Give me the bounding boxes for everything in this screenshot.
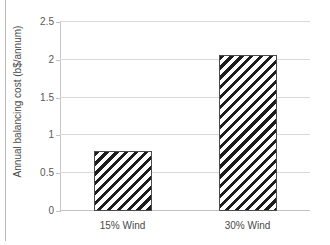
page-edge-line bbox=[5, 0, 6, 241]
y-tick-mark bbox=[56, 60, 60, 61]
y-tick-label: 0 bbox=[48, 206, 54, 216]
gridline bbox=[60, 21, 310, 22]
bar bbox=[219, 55, 277, 211]
y-tick-label: 1.5 bbox=[40, 93, 54, 103]
y-tick-mark bbox=[56, 173, 60, 174]
y-tick-label: 2 bbox=[48, 55, 54, 65]
bar bbox=[94, 151, 152, 211]
y-tick-label: 0.5 bbox=[40, 168, 54, 178]
plot-area bbox=[60, 22, 310, 211]
y-tick-mark bbox=[56, 135, 60, 136]
x-tick-label: 30% Wind bbox=[185, 220, 310, 231]
y-tick-mark bbox=[56, 22, 60, 23]
y-axis-tick-labels: 00.511.522.5 bbox=[14, 0, 54, 245]
y-tick-mark bbox=[56, 211, 60, 212]
y-tick-mark bbox=[56, 98, 60, 99]
x-tick-label: 15% Wind bbox=[60, 220, 185, 231]
bar-chart-figure: Annual balancing cost (b$/annum) 00.511.… bbox=[0, 0, 330, 245]
y-tick-label: 2.5 bbox=[40, 17, 54, 27]
y-tick-label: 1 bbox=[48, 130, 54, 140]
